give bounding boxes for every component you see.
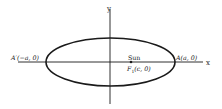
right-vertex-label: A(a, 0) [175, 54, 198, 61]
x-axis-label: x [206, 59, 210, 67]
ellipse-orbit-diagram: y x A′(−a, 0) A(a, 0) Sun F1(c, 0) [0, 0, 222, 109]
left-vertex-label: A′(−a, 0) [10, 54, 39, 61]
sun-label: Sun [128, 54, 140, 61]
focus-point-sun [130, 61, 133, 64]
y-axis-label: y [106, 5, 111, 13]
focus-coordinate-label: F1(c, 0) [126, 65, 151, 74]
